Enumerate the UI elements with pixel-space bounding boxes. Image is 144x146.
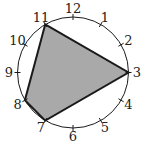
hour-label-8: 8 bbox=[13, 97, 21, 112]
hour-label-4: 4 bbox=[124, 97, 132, 112]
hour-label-12: 12 bbox=[65, 1, 82, 16]
hour-label-10: 10 bbox=[9, 33, 26, 48]
tick-4 bbox=[118, 99, 123, 102]
shaded-quadrilateral bbox=[25, 24, 129, 120]
hour-label-2: 2 bbox=[124, 33, 132, 48]
clock-diagram: 123456789101112 bbox=[0, 0, 144, 146]
hour-label-6: 6 bbox=[69, 129, 77, 144]
hour-label-1: 1 bbox=[101, 10, 109, 25]
hour-label-11: 11 bbox=[33, 10, 50, 25]
hour-label-5: 5 bbox=[101, 120, 109, 135]
hour-label-3: 3 bbox=[133, 65, 141, 80]
hour-label-9: 9 bbox=[5, 65, 13, 80]
tick-2 bbox=[118, 43, 123, 46]
clock-figure: 123456789101112 bbox=[0, 0, 144, 146]
hour-label-7: 7 bbox=[37, 120, 45, 135]
